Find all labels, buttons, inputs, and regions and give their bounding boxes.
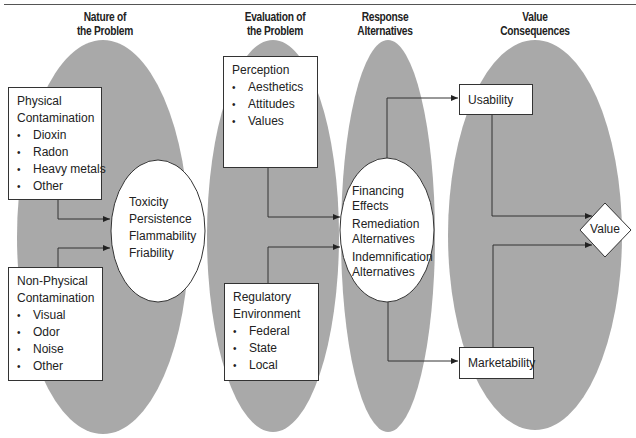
value-label: Value (585, 222, 625, 236)
list-item: State (233, 340, 310, 357)
contaminant-list: Dioxin Radon Heavy metals Other (17, 127, 93, 195)
non-physical-contamination-box: Non-Physical Contamination Visual Odor N… (8, 267, 103, 381)
usability-label: Usability (468, 93, 513, 107)
list-item: Federal (233, 323, 310, 340)
characteristic-item: Friability (129, 245, 196, 262)
box-title: Contamination (17, 110, 93, 127)
box-title: Non-Physical (17, 273, 94, 290)
response-group-financing: Financing Effects (352, 184, 433, 213)
list-item: Dioxin (17, 127, 93, 144)
physical-contamination-box: Physical Contamination Dioxin Radon Heav… (8, 87, 102, 200)
response-line: Alternatives (352, 232, 433, 247)
box-title: Perception (232, 62, 309, 79)
regulatory-environment-box: Regulatory Environment Federal State Loc… (224, 283, 319, 381)
response-line: Effects (352, 199, 433, 214)
response-group-indemnification: Indemnification Alternatives (352, 250, 433, 279)
list-item: Other (17, 178, 93, 195)
list-item: Aesthetics (232, 79, 309, 96)
box-title: Contamination (17, 290, 94, 307)
list-item: Visual (17, 307, 94, 324)
characteristics-text: Toxicity Persistence Flammability Friabi… (129, 194, 196, 262)
list-item: Radon (17, 144, 93, 161)
contaminant-list: Visual Odor Noise Other (17, 307, 94, 375)
box-title: Regulatory (233, 289, 310, 306)
list-item: Local (233, 357, 310, 374)
perception-list: Aesthetics Attitudes Values (232, 79, 309, 130)
list-item: Odor (17, 324, 94, 341)
box-title: Physical (17, 93, 93, 110)
response-group-remediation: Remediation Alternatives (352, 217, 433, 246)
box-title: Environment (233, 306, 310, 323)
response-line: Remediation (352, 217, 433, 232)
characteristic-item: Toxicity (129, 194, 196, 211)
list-item: Other (17, 358, 94, 375)
response-alternatives-text: Financing Effects Remediation Alternativ… (352, 184, 433, 283)
response-line: Alternatives (352, 265, 433, 280)
response-line: Indemnification (352, 250, 433, 265)
marketability-label: Marketability (468, 356, 535, 370)
characteristic-item: Persistence (129, 211, 196, 228)
characteristic-item: Flammability (129, 228, 196, 245)
list-item: Noise (17, 341, 94, 358)
marketability-box: Marketability (459, 347, 534, 379)
response-line: Financing (352, 184, 433, 199)
usability-box: Usability (459, 84, 533, 115)
list-item: Values (232, 113, 309, 130)
perception-box: Perception Aesthetics Attitudes Values (223, 56, 318, 168)
list-item: Heavy metals (17, 161, 93, 178)
regulatory-list: Federal State Local (233, 323, 310, 374)
list-item: Attitudes (232, 96, 309, 113)
